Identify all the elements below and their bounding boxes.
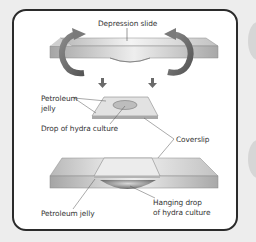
label-coverslip: Coverslip (176, 135, 209, 144)
down-arrow-left-icon (98, 78, 107, 88)
down-arrow-right-icon (148, 78, 157, 88)
label-depression-slide: Depression slide (98, 19, 157, 28)
label-hanging-drop-line2: of hydra culture (153, 208, 210, 217)
label-petroleum-jelly-top-line2: jelly (41, 104, 56, 113)
label-petroleum-jelly-bottom: Petroleum jelly (41, 209, 94, 218)
drop-of-hydra-culture (113, 101, 137, 110)
assembled-slide (50, 158, 218, 189)
label-hanging-drop-line1: Hanging drop (153, 198, 202, 207)
coverslip-on-slide (94, 158, 160, 176)
label-drop-of-hydra-culture: Drop of hydra culture (41, 124, 118, 133)
label-petroleum-jelly-top-line1: Petroleum (41, 94, 78, 103)
hanging-drop-diagram (0, 0, 256, 242)
coverslip-with-jelly (92, 97, 158, 119)
